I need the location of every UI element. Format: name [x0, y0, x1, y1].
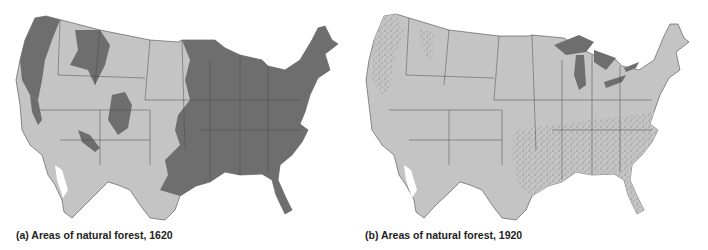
us-forest-map-1620 — [0, 0, 354, 222]
map-panel-1920: (b) Areas of natural forest, 1920 — [354, 0, 708, 250]
map-panel-1620: (a) Areas of natural forest, 1620 — [0, 0, 354, 250]
caption-1920: (b) Areas of natural forest, 1920 — [365, 229, 522, 241]
us-forest-map-1920 — [354, 0, 708, 222]
caption-1620: (a) Areas of natural forest, 1620 — [16, 229, 173, 241]
